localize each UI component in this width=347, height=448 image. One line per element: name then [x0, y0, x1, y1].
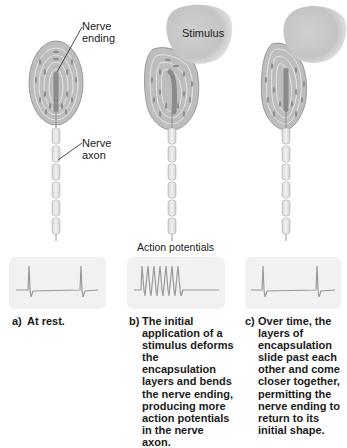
caption-c-text: Over time, the layers of encapsulation s…: [258, 315, 346, 436]
axon-c: [282, 128, 290, 241]
nerve-axon-label: Nerve axon: [82, 137, 111, 161]
ap-box-a: [9, 257, 106, 309]
nerve-ending-label: Nerve ending: [82, 20, 115, 44]
caption-a-text: At rest.: [27, 315, 122, 327]
corpuscle-at-rest: [29, 41, 83, 130]
axon-a: [52, 128, 60, 241]
stimulus-c: [283, 6, 346, 63]
stimulus-label: Stimulus: [182, 27, 224, 39]
ap-box-c: [245, 257, 341, 309]
action-potentials-title: Action potentials: [137, 241, 214, 253]
leader-nerve-axon: [58, 143, 82, 160]
caption-c-tag: c): [245, 315, 255, 327]
axon-b: [168, 128, 176, 241]
caption-a-tag: a): [12, 315, 22, 327]
caption-b-text: The initial application of a stimulus de…: [142, 315, 234, 448]
caption-b-tag: b): [129, 315, 139, 327]
